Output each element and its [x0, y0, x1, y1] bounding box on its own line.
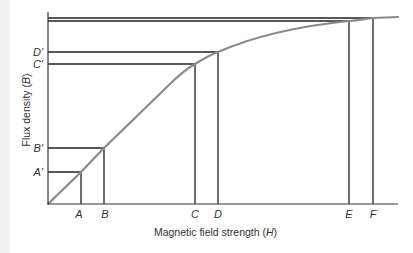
- y-axis-variable: B: [20, 77, 32, 84]
- projection-e: [48, 21, 349, 204]
- x-tick-c: C: [191, 208, 199, 220]
- x-tick-b: B: [101, 208, 108, 220]
- y-tick-b-prime: B′: [34, 142, 44, 154]
- x-axis-title-text: Magnetic field strength (: [154, 226, 266, 238]
- x-tick-a: A: [74, 208, 82, 220]
- projection-d: [48, 52, 218, 204]
- y-tick-d-prime: D′: [33, 46, 44, 58]
- x-tick-f: F: [370, 208, 378, 220]
- y-axis-title-text: Flux density (: [20, 84, 32, 146]
- y-tick-c-prime: C′: [33, 58, 44, 70]
- magnetization-curve: [48, 17, 398, 204]
- bh-curve-diagram: A B C D E F A′ B′ C′ D′: [0, 0, 413, 253]
- y-axis-title: Flux density (B): [20, 74, 32, 147]
- x-tick-e: E: [345, 208, 353, 220]
- x-axis-title: Magnetic field strength (H): [0, 226, 413, 238]
- x-tick-d: D: [214, 208, 222, 220]
- projection-f: [48, 18, 373, 204]
- x-axis-variable: H: [266, 226, 274, 238]
- y-tick-a-prime: A′: [33, 166, 44, 178]
